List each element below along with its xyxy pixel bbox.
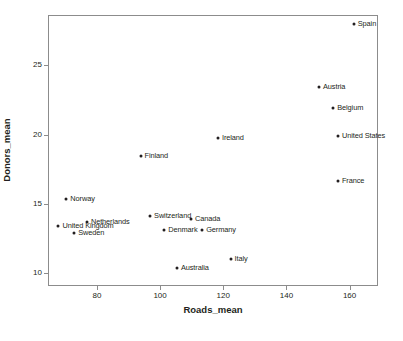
data-point-label: Norway	[70, 195, 94, 203]
data-point	[336, 134, 339, 137]
data-point	[352, 23, 355, 26]
x-tick-mark	[286, 286, 287, 290]
data-point	[65, 198, 68, 201]
y-tick-mark	[44, 204, 48, 205]
x-tick-mark	[223, 286, 224, 290]
data-point-label: Canada	[195, 215, 220, 223]
data-point	[139, 155, 142, 158]
data-point-label: Denmark	[168, 226, 197, 234]
x-tick-label: 140	[280, 291, 293, 301]
data-point-label: Spain	[358, 20, 376, 28]
y-tick-mark	[44, 65, 48, 66]
data-point-label: Ireland	[222, 134, 244, 142]
data-point	[57, 224, 60, 227]
data-point	[190, 217, 193, 220]
data-point	[175, 266, 178, 269]
data-point-label: Australia	[181, 264, 209, 272]
data-point-label: Austria	[323, 83, 345, 91]
y-tick-mark	[44, 273, 48, 274]
y-tick-mark	[44, 135, 48, 136]
data-point	[216, 137, 219, 140]
y-tick-label: 25	[33, 60, 42, 70]
data-point-label: United States	[342, 132, 385, 140]
y-axis-title: Donors_mean	[1, 118, 12, 181]
data-point	[201, 229, 204, 232]
data-point-label: Finland	[145, 152, 169, 160]
x-tick-mark	[350, 286, 351, 290]
x-axis-title: Roads_mean	[48, 304, 378, 315]
scatter-plot-figure: SpainAustriaBelgiumUnited StatesIrelandF…	[0, 0, 403, 341]
y-tick-label: 20	[33, 130, 42, 140]
data-point	[229, 258, 232, 261]
data-point	[73, 231, 76, 234]
x-tick-label: 160	[343, 291, 356, 301]
x-tick-mark	[160, 286, 161, 290]
data-point	[318, 85, 321, 88]
data-point-label: France	[342, 177, 364, 185]
y-tick-label: 15	[33, 199, 42, 209]
data-point	[163, 229, 166, 232]
data-point-label: Belgium	[337, 104, 363, 112]
x-tick-label: 100	[153, 291, 166, 301]
plot-area: SpainAustriaBelgiumUnited StatesIrelandF…	[49, 16, 377, 285]
data-point-label: Sweden	[78, 229, 104, 237]
data-point	[149, 215, 152, 218]
data-point-label: Italy	[235, 255, 248, 263]
data-point	[336, 180, 339, 183]
x-tick-label: 120	[217, 291, 230, 301]
data-point-label: Germany	[206, 226, 236, 234]
data-point	[332, 106, 335, 109]
x-tick-label: 80	[92, 291, 101, 301]
plot-frame: SpainAustriaBelgiumUnited StatesIrelandF…	[48, 15, 378, 286]
x-tick-mark	[97, 286, 98, 290]
y-tick-label: 10	[33, 268, 42, 278]
data-point-label: Switzerland	[154, 212, 191, 220]
